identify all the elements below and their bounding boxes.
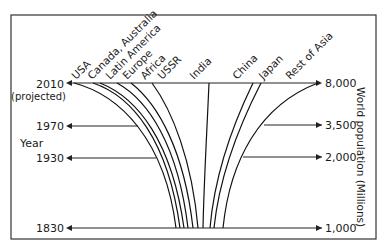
label-india: India	[187, 55, 214, 82]
region-labels: USA Canada, Australia Latin America Euro…	[69, 7, 335, 82]
arrow-2010	[66, 80, 72, 86]
label-japan: Japan	[255, 52, 285, 82]
curve-india	[203, 83, 209, 228]
year-axis-label: Year	[19, 137, 44, 150]
curve-japan	[214, 83, 261, 228]
pop-tick-8000: 8,000	[325, 77, 357, 90]
arrow-1000	[316, 225, 322, 231]
year-tick-2010: 2010	[36, 78, 64, 91]
curve-canada-australia	[93, 83, 180, 228]
year-tick-1830: 1830	[36, 222, 64, 235]
population-diagram: 2010 (projected) 1970 Year 1930 1830 8,0…	[0, 0, 388, 250]
year-tick-1970: 1970	[36, 120, 64, 133]
pop-tick-1000: 1,000	[325, 222, 357, 235]
arrow-3500	[316, 122, 322, 128]
pop-tick-2000: 2,000	[325, 151, 357, 164]
region-curves	[74, 83, 318, 228]
label-rest-of-asia: Rest of Asia	[283, 29, 335, 81]
population-axis-label: World population (Millions)	[355, 87, 367, 227]
curve-usa	[74, 83, 176, 228]
year-tick-1930: 1930	[36, 152, 64, 165]
curve-ussr	[152, 83, 198, 228]
pop-tick-3500: 3,500	[325, 119, 357, 132]
curve-rest-of-asia	[223, 83, 318, 228]
label-china: China	[230, 52, 260, 82]
arrow-1930	[66, 155, 72, 161]
projected-note: (projected)	[11, 91, 66, 102]
arrow-2000	[316, 154, 322, 160]
arrow-1830	[66, 225, 72, 231]
arrow-1970	[66, 123, 72, 129]
curve-china	[210, 83, 253, 228]
